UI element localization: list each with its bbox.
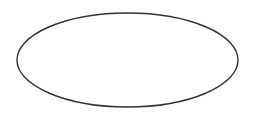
diagram-canvas	[0, 0, 253, 117]
diagram-svg	[0, 0, 253, 117]
ellipse-shape	[17, 13, 238, 107]
